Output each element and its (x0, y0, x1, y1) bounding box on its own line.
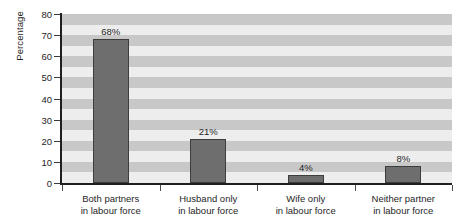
y-axis-tick-label: 70 (30, 30, 57, 41)
bar-value-label: 21% (199, 126, 218, 137)
y-axis-tick-label: 0 (30, 178, 57, 189)
y-axis-tick-label: 10 (30, 156, 57, 167)
category-label-line: Both partners (81, 193, 141, 205)
x-axis-tick (160, 185, 161, 191)
category-label: Wife onlyin labour force (276, 193, 336, 216)
category-label-line: in labour force (81, 205, 141, 217)
bar (190, 139, 226, 183)
category-label-line: Neither partner (372, 193, 435, 205)
background-band (62, 25, 452, 36)
x-axis-tick (355, 185, 356, 191)
bar (288, 175, 324, 183)
category-label: Both partnersin labour force (81, 193, 141, 216)
category-label-line: in labour force (276, 205, 336, 217)
bar (385, 166, 421, 183)
bar-value-label: 68% (101, 26, 120, 37)
x-axis-line (60, 183, 452, 185)
bar (93, 39, 129, 183)
background-band (62, 14, 452, 25)
bar-value-label: 8% (396, 153, 410, 164)
y-axis-tick-label: 50 (30, 72, 57, 83)
y-axis-tick-label: 40 (30, 93, 57, 104)
y-axis-tick-labels: 80706050403020100 (30, 0, 57, 224)
y-axis-tick-label: 20 (30, 135, 57, 146)
y-axis-tick-label: 60 (30, 51, 57, 62)
y-axis-title: Percentage (14, 0, 30, 76)
bar-value-label: 4% (299, 162, 313, 173)
bar-chart: Percentage 80706050403020100 68%21%4%8% … (0, 0, 470, 224)
plot-area (62, 14, 452, 183)
y-axis-tick-label: 80 (30, 9, 57, 20)
x-axis-tick (62, 185, 63, 191)
category-label: Husband onlyin labour force (178, 193, 238, 216)
x-axis-tick (257, 185, 258, 191)
category-label-line: in labour force (178, 205, 238, 217)
category-label-line: Wife only (276, 193, 336, 205)
category-label: Neither partnerin labour force (372, 193, 435, 216)
x-axis-tick (452, 185, 453, 191)
y-axis-tick-label: 30 (30, 114, 57, 125)
category-label-line: Husband only (178, 193, 238, 205)
category-label-line: in labour force (372, 205, 435, 217)
